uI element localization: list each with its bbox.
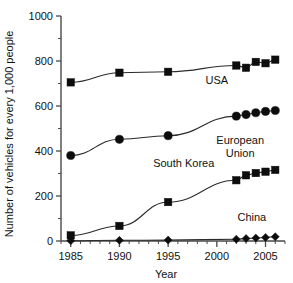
data-point-square [242,172,249,179]
data-point-diamond [271,233,279,241]
x-tick-label: 1995 [156,250,180,262]
series-label-usa: USA [206,74,229,86]
data-point-square [242,64,249,71]
data-point-circle [261,107,269,115]
series-south-korea [67,166,279,239]
series-line-path [71,170,276,235]
data-point-diamond [164,236,172,244]
y-tick-label: 0 [47,235,53,247]
y-tick-label: 200 [35,190,53,202]
data-point-square [116,222,123,229]
x-tick-label: 1985 [58,250,82,262]
data-point-circle [242,110,250,118]
y-tick-label: 800 [35,55,53,67]
data-point-square [262,168,269,175]
x-tick-label: 2000 [205,250,229,262]
data-point-square [116,69,123,76]
data-point-square [272,166,279,173]
data-point-circle [67,151,75,159]
series-label-south-korea: South Korea [153,157,215,169]
data-point-square [67,79,74,86]
data-point-diamond [115,236,123,244]
data-point-diamond [232,235,240,243]
data-point-circle [115,135,123,143]
y-tick-label: 400 [35,145,53,157]
vehicle-ownership-line-chart: 02004006008001000 19851990199520002005 U… [0,0,293,283]
series-usa [67,56,279,86]
x-tick-label: 1990 [107,250,131,262]
series-label-european-union: Union [226,147,255,159]
data-point-square [164,198,171,205]
y-axis: 02004006008001000 [29,10,61,247]
series-china [67,233,280,245]
data-point-square [252,58,259,65]
data-point-square [233,62,240,69]
data-point-square [164,68,171,75]
y-tick-label: 1000 [29,10,53,22]
series-label-china: China [238,211,268,223]
series-label-european-union: European [216,134,264,146]
y-axis-title: Number of vehicles for every 1,000 peopl… [3,31,15,238]
data-point-diamond [262,233,270,241]
x-axis-title: Year [155,268,178,280]
x-axis: 19851990199520002005 [58,241,285,262]
data-point-circle [164,132,172,140]
data-point-square [233,177,240,184]
x-tick-label: 2005 [253,250,277,262]
data-point-square [272,56,279,63]
data-point-circle [271,106,279,114]
chart-container: 02004006008001000 19851990199520002005 U… [0,0,293,283]
y-tick-label: 600 [35,100,53,112]
data-point-circle [232,112,240,120]
data-point-circle [252,109,260,117]
data-point-square [252,169,259,176]
data-point-square [262,60,269,67]
